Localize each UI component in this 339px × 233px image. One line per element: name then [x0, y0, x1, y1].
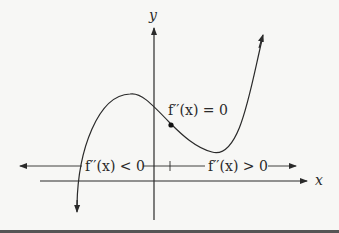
bottom-rule	[0, 230, 339, 233]
concave-up-label: f′′(x) > 0	[208, 158, 268, 174]
x-axis-label: x	[315, 172, 323, 188]
concave-down-label: f′′(x) < 0	[85, 158, 145, 174]
concavity-diagram: y x f′′(x) = 0 f′′(x) < 0 f′′(x) > 0	[0, 0, 339, 233]
inflection-point	[168, 122, 173, 127]
inflection-label: f′′(x) = 0	[168, 102, 228, 118]
y-axis-label: y	[148, 7, 158, 23]
